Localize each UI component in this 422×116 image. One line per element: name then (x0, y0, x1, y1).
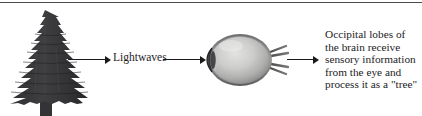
lightwaves-label: Lightwaves (113, 51, 163, 64)
arrow-shaft (68, 59, 106, 60)
arrow-tree-to-lightwaves (68, 55, 111, 64)
diagram-canvas: Lightwaves (0, 0, 422, 116)
top-divider-rule (0, 2, 422, 3)
arrow-head (105, 56, 111, 64)
arrow-shaft (163, 59, 201, 60)
arrow-shaft (287, 59, 314, 60)
caption-line: Occipital lobes of (325, 28, 422, 41)
arrow-eye-to-brain (287, 55, 319, 64)
caption-line: process it as a "tree" (325, 78, 422, 91)
caption-line: the brain receive (325, 41, 422, 54)
eye-anatomy-icon (203, 28, 291, 88)
caption-line: from the eye and (325, 66, 422, 79)
caption-line: sensory information (325, 53, 422, 66)
arrow-head (313, 56, 319, 64)
arrow-lightwaves-to-eye (163, 55, 206, 64)
brain-caption: Occipital lobes of the brain receive sen… (325, 28, 422, 91)
